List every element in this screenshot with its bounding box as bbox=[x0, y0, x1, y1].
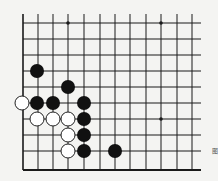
white-stone bbox=[15, 96, 29, 110]
star-point bbox=[159, 117, 163, 121]
white-stone bbox=[61, 128, 75, 142]
black-stone bbox=[30, 96, 44, 110]
black-stone bbox=[61, 80, 75, 94]
black-stone bbox=[77, 128, 91, 142]
white-stone bbox=[61, 112, 75, 126]
star-point bbox=[66, 21, 70, 25]
black-stone bbox=[108, 144, 122, 158]
white-stone bbox=[61, 144, 75, 158]
black-stone bbox=[77, 144, 91, 158]
black-stone bbox=[46, 96, 60, 110]
figure-caption: 图 bbox=[210, 148, 218, 154]
go-board bbox=[0, 0, 218, 181]
star-point bbox=[159, 21, 163, 25]
black-stone bbox=[30, 64, 44, 78]
black-stone bbox=[77, 96, 91, 110]
white-stone bbox=[30, 112, 44, 126]
black-stone bbox=[77, 112, 91, 126]
white-stone bbox=[46, 112, 60, 126]
